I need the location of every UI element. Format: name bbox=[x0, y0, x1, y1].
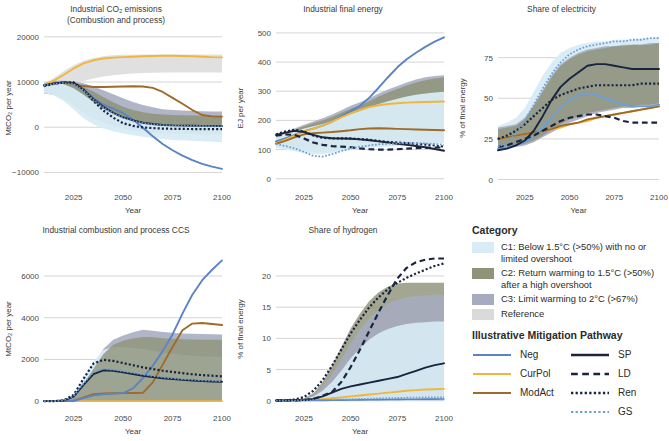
legend-category-label: C2: Return warming to 1.5°C (>50%) after… bbox=[501, 267, 668, 290]
x-tick-label: 2075 bbox=[388, 193, 406, 202]
legend-line-curpol-icon bbox=[472, 369, 512, 379]
y-tick-label: −10000 bbox=[12, 168, 39, 177]
y-tick-label: 25 bbox=[484, 135, 493, 144]
band-C2 bbox=[44, 337, 222, 401]
legend-category-list: C1: Below 1.5°C (>50%) with no or limite… bbox=[472, 241, 668, 320]
panel-title: Share of hydrogen bbox=[232, 225, 454, 236]
x-tick-label: 2075 bbox=[388, 414, 406, 423]
panel-share-of-electricity: Share of electricity 0255075202520502075… bbox=[454, 4, 669, 220]
x-tick-label: 2075 bbox=[164, 414, 182, 423]
y-tick-label: 5 bbox=[267, 366, 272, 375]
panel-title: Share of electricity bbox=[454, 4, 669, 15]
legend-line-modact-icon bbox=[472, 388, 512, 398]
plot-svg: 02000400060002025205020752100YearMtCO₂ p… bbox=[0, 225, 232, 441]
band-C1 bbox=[276, 92, 444, 154]
x-tick-label: 2100 bbox=[213, 414, 231, 423]
legend-pathway-ld[interactable]: LD bbox=[570, 364, 668, 383]
y-axis-title: % of final energy bbox=[458, 78, 467, 138]
y-tick-label: 50 bbox=[484, 94, 493, 103]
legend-pathway-ren[interactable]: Ren bbox=[570, 383, 668, 402]
y-tick-label: 0 bbox=[35, 397, 40, 406]
figure-root: Industrial CO₂ emissions (Combustion and… bbox=[0, 0, 669, 441]
panel-title-line2: (Combustion and process) bbox=[0, 15, 232, 26]
panel-title-line1: Industrial combustion and process CCS bbox=[42, 225, 189, 235]
plot-svg: 02550752025205020752100Year% of final en… bbox=[454, 4, 669, 220]
y-axis-title: % of final energy bbox=[236, 299, 245, 359]
x-tick-label: 2100 bbox=[213, 193, 231, 202]
legend-line-gs-icon bbox=[570, 407, 610, 417]
legend-line-sp-icon bbox=[570, 350, 610, 360]
legend-pathway-label: Ren bbox=[618, 387, 636, 398]
panel-title: Industrial final energy bbox=[232, 4, 454, 15]
legend-line-ren-icon bbox=[570, 388, 610, 398]
legend-pathway-col-right: SPLDRenGS bbox=[570, 345, 668, 421]
legend-category-c3[interactable]: C3: Limit warming to 2°C (>67%) bbox=[472, 293, 668, 305]
y-tick-label: 100 bbox=[258, 146, 272, 155]
legend-pathway-gs[interactable]: GS bbox=[570, 402, 668, 421]
y-tick-label: 6000 bbox=[21, 272, 39, 281]
panel-title-line1: Industrial CO₂ emissions bbox=[70, 4, 162, 14]
legend-category-label: C1: Below 1.5°C (>50%) with no or limite… bbox=[501, 241, 668, 264]
y-tick-label: 10000 bbox=[17, 78, 40, 87]
x-axis-title: Year bbox=[352, 427, 369, 436]
y-axis-title: MtCO₂ per year bbox=[4, 301, 13, 357]
legend-pathway-sp[interactable]: SP bbox=[570, 345, 668, 364]
legend-pathway-modact[interactable]: ModAct bbox=[472, 383, 570, 402]
legend: Category C1: Below 1.5°C (>50%) with no … bbox=[472, 224, 668, 421]
x-tick-label: 2075 bbox=[164, 193, 182, 202]
plot-svg: −10000010000200002025205020752100YearMtC… bbox=[0, 4, 232, 220]
x-axis-title: Year bbox=[125, 427, 142, 436]
y-tick-label: 0 bbox=[267, 175, 272, 184]
x-tick-label: 2100 bbox=[650, 193, 668, 202]
y-tick-label: 20 bbox=[262, 272, 271, 281]
x-tick-label: 2050 bbox=[342, 414, 360, 423]
legend-category-label: Reference bbox=[501, 308, 544, 320]
legend-swatch-c3 bbox=[472, 294, 494, 305]
y-axis-title: EJ per year bbox=[236, 87, 245, 128]
x-axis-title: Year bbox=[352, 206, 369, 215]
legend-pathway-grid: NegCurPolModAct SPLDRenGS bbox=[472, 345, 668, 421]
legend-pathway-heading: Illustrative Mitigation Pathway bbox=[472, 329, 668, 341]
plot-svg: 051015202025205020752100Year% of final e… bbox=[232, 225, 454, 441]
y-tick-label: 15 bbox=[262, 303, 271, 312]
legend-pathway-neg[interactable]: Neg bbox=[472, 345, 570, 364]
x-tick-label: 2025 bbox=[65, 193, 83, 202]
x-tick-label: 2025 bbox=[516, 193, 534, 202]
legend-category-reference[interactable]: Reference bbox=[472, 308, 668, 320]
legend-pathway-label: CurPol bbox=[520, 368, 551, 379]
x-tick-label: 2050 bbox=[114, 414, 132, 423]
plot-svg: 01002003004005002025205020752100YearEJ p… bbox=[232, 4, 454, 220]
x-tick-label: 2100 bbox=[435, 193, 453, 202]
x-tick-label: 2050 bbox=[342, 193, 360, 202]
y-tick-label: 200 bbox=[258, 116, 272, 125]
panel-title-line1: Share of electricity bbox=[527, 4, 596, 14]
legend-line-neg-icon bbox=[472, 350, 512, 360]
x-tick-label: 2050 bbox=[114, 193, 132, 202]
legend-swatch-c2 bbox=[472, 268, 494, 279]
panel-title: Industrial combustion and process CCS bbox=[0, 225, 232, 236]
x-tick-label: 2050 bbox=[561, 193, 579, 202]
x-axis-title: Year bbox=[570, 206, 587, 215]
panel-share-of-hydrogen: Share of hydrogen 0510152020252050207521… bbox=[232, 225, 454, 441]
x-tick-label: 2075 bbox=[605, 193, 623, 202]
legend-category-c1[interactable]: C1: Below 1.5°C (>50%) with no or limite… bbox=[472, 241, 668, 264]
legend-pathway-label: GS bbox=[618, 406, 632, 417]
y-tick-label: 500 bbox=[258, 29, 272, 38]
legend-pathway-col-left: NegCurPolModAct bbox=[472, 345, 570, 421]
legend-category-label: C3: Limit warming to 2°C (>67%) bbox=[501, 293, 638, 305]
legend-pathway-label: Neg bbox=[520, 349, 538, 360]
x-tick-label: 2100 bbox=[435, 414, 453, 423]
y-tick-label: 4000 bbox=[21, 314, 39, 323]
legend-swatch-c1 bbox=[472, 242, 494, 253]
y-tick-label: 10 bbox=[262, 334, 271, 343]
x-tick-label: 2025 bbox=[295, 414, 313, 423]
y-tick-label: 2000 bbox=[21, 355, 39, 364]
x-axis-title: Year bbox=[125, 206, 142, 215]
legend-category-c2[interactable]: C2: Return warming to 1.5°C (>50%) after… bbox=[472, 267, 668, 290]
y-tick-label: 20000 bbox=[17, 33, 40, 42]
legend-category-heading: Category bbox=[472, 224, 668, 236]
y-tick-label: 0 bbox=[35, 123, 40, 132]
panel-title: Industrial CO₂ emissions (Combustion and… bbox=[0, 4, 232, 25]
legend-pathway-curpol[interactable]: CurPol bbox=[472, 364, 570, 383]
x-tick-label: 2025 bbox=[295, 193, 313, 202]
